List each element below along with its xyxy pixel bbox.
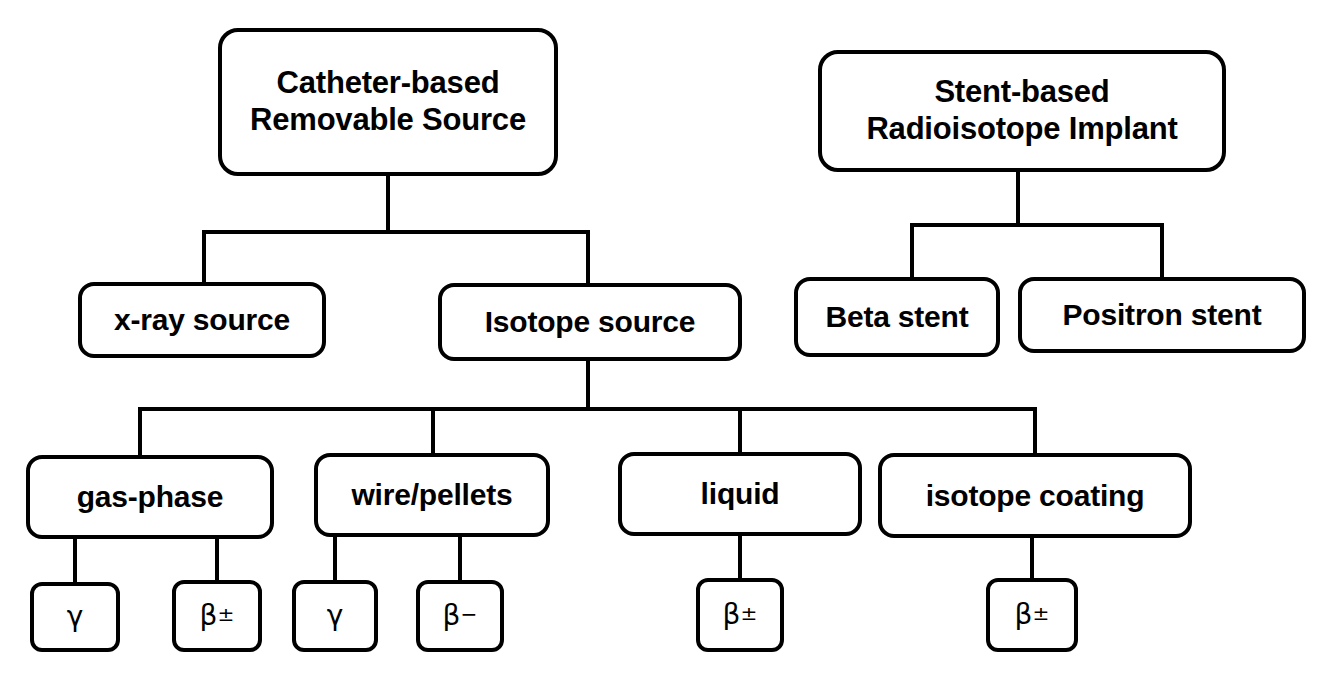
node-label: Isotope source — [479, 304, 702, 339]
node-liquid[interactable]: liquid — [618, 452, 862, 536]
node-leaf-gamma-gas-phase[interactable]: γ — [30, 582, 120, 652]
node-label: Beta stent — [819, 299, 974, 334]
node-stent-based-radioisotope-implant[interactable]: Stent-based Radioisotope Implant — [818, 50, 1226, 172]
node-label: Positron stent — [1057, 297, 1268, 332]
node-label: Catheter-based Removable Source — [244, 65, 532, 138]
node-label: Stent-based Radioisotope Implant — [860, 74, 1183, 147]
node-label: γ — [67, 603, 84, 631]
node-label: x-ray source — [108, 302, 296, 337]
node-leaf-beta-plusminus-liquid[interactable]: β± — [696, 578, 784, 652]
node-catheter-based-removable-source[interactable]: Catheter-based Removable Source — [218, 28, 558, 176]
node-leaf-beta-plusminus-isotope-coating[interactable]: β± — [986, 578, 1078, 652]
node-label: liquid — [695, 476, 786, 511]
node-gas-phase[interactable]: gas-phase — [26, 455, 274, 539]
node-leaf-beta-minus-wire-pellets[interactable]: β− — [416, 580, 504, 652]
node-label: wire/pellets — [345, 477, 518, 512]
node-leaf-beta-plusminus-gas-phase[interactable]: β± — [172, 580, 262, 652]
node-isotope-coating[interactable]: isotope coating — [878, 453, 1192, 538]
node-label: β± — [1015, 601, 1050, 629]
diagram-canvas: Catheter-based Removable Source Stent-ba… — [0, 0, 1326, 684]
node-beta-stent[interactable]: Beta stent — [794, 277, 1000, 357]
node-label: γ — [327, 602, 344, 630]
node-label: β± — [723, 601, 758, 629]
node-isotope-source[interactable]: Isotope source — [438, 283, 742, 361]
node-label: gas-phase — [71, 479, 230, 514]
node-leaf-gamma-wire-pellets[interactable]: γ — [292, 580, 378, 652]
node-positron-stent[interactable]: Positron stent — [1018, 277, 1306, 353]
node-label: β− — [443, 602, 478, 630]
node-wire-pellets[interactable]: wire/pellets — [314, 453, 550, 537]
node-label: isotope coating — [920, 478, 1151, 513]
node-x-ray-source[interactable]: x-ray source — [78, 282, 326, 358]
node-label: β± — [200, 602, 235, 630]
